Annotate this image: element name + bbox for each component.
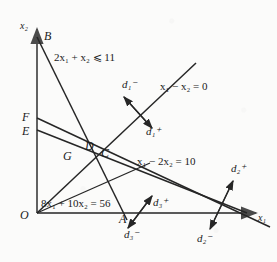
label-d3-plus: d₃⁺ — [153, 197, 168, 208]
vertex-E: E — [22, 125, 29, 137]
goal-programming-graph: x₂ x₁ B F E G D C A O 2x₁ + x₂ ⩽ 11 x₁ −… — [0, 0, 277, 262]
arrow-d3-minus — [128, 196, 152, 228]
vertex-G: G — [63, 150, 72, 162]
equation-constraint-1: 2x₁ + x₂ ⩽ 11 — [54, 52, 115, 63]
label-d1-plus: d₁⁺ — [146, 126, 161, 137]
graph-canvas — [0, 0, 277, 262]
vertex-A: A — [119, 213, 126, 225]
vertex-F: F — [22, 111, 29, 123]
vertex-B: B — [44, 30, 51, 42]
equation-goal-2: x₁ − 2x₂ = 10 — [137, 156, 196, 167]
axis-label-x: x₁ — [258, 213, 266, 223]
label-d3-minus: d₃⁻ — [124, 229, 139, 240]
arrow-d1-plus — [124, 97, 152, 128]
arrow-d2-minus — [210, 181, 233, 229]
label-d2-minus: d₂⁻ — [197, 233, 212, 244]
equation-goal-1: x₁ − x₂ = 0 — [160, 81, 208, 92]
vertex-D: D — [85, 140, 94, 152]
label-d2-plus: d₂⁺ — [231, 163, 246, 174]
label-d1-minus: d₁⁻ — [122, 79, 137, 90]
equation-objective: 8x₁ + 10x₂ = 56 — [41, 198, 111, 209]
vertex-O: O — [20, 209, 29, 221]
vertex-C: C — [101, 147, 109, 159]
axis-label-y: x₂ — [20, 21, 28, 31]
